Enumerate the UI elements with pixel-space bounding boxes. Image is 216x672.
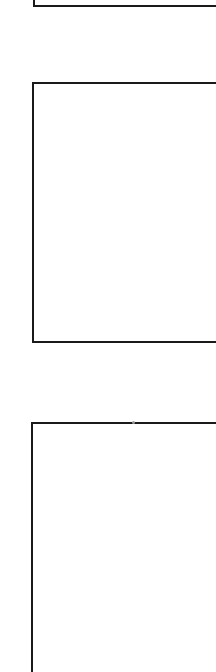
border-mark-dot (132, 421, 135, 424)
frame-middle (32, 82, 216, 343)
frame-top-partial (33, 0, 216, 7)
frame-bottom-partial (31, 422, 216, 672)
